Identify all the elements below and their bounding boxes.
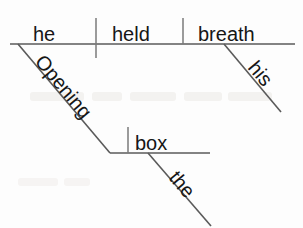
word-opening: Opening — [31, 50, 96, 122]
word-his: his — [244, 56, 277, 90]
word-box: box — [135, 132, 167, 154]
sentence-diagram-svg: he held breath Opening his box the — [0, 0, 303, 228]
word-held: held — [112, 23, 150, 45]
word-breath: breath — [198, 23, 255, 45]
word-the: the — [165, 166, 200, 201]
sentence-diagram-canvas: he held breath Opening his box the — [0, 0, 303, 228]
word-he: he — [33, 23, 55, 45]
